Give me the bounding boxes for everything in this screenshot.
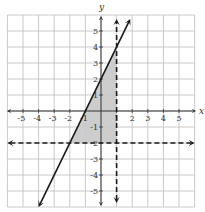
x-tick-label: -3 xyxy=(49,114,57,123)
coordinate-plane-graph: -5-4-3-2-11234554321-1-2-3-4-5 x y xyxy=(0,0,205,212)
x-tick-label: 3 xyxy=(145,114,150,123)
y-tick-label: 2 xyxy=(93,75,98,84)
y-tick-label: -3 xyxy=(90,155,98,164)
x-axis-label: x xyxy=(199,106,204,116)
x-tick-label: -2 xyxy=(64,114,72,123)
x-tick-label: -4 xyxy=(33,114,41,123)
y-axis-label: y xyxy=(98,2,105,12)
x-tick-label: 4 xyxy=(161,114,166,123)
y-tick-label: -4 xyxy=(90,171,98,180)
y-tick-label: 4 xyxy=(93,43,98,52)
y-tick-label: 5 xyxy=(93,27,98,36)
x-tick-label: 5 xyxy=(176,114,181,123)
x-tick-label: -5 xyxy=(18,114,26,123)
x-tick-label: 2 xyxy=(130,114,135,123)
y-tick-label: -1 xyxy=(90,123,98,132)
y-tick-label: -5 xyxy=(90,187,98,196)
axes xyxy=(7,16,196,206)
y-tick-label: 3 xyxy=(93,59,98,68)
